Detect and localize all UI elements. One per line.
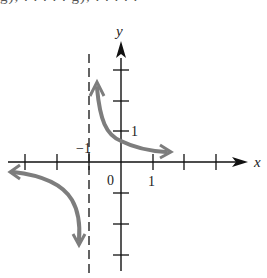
y-tick-label-1: 1 [131,124,138,139]
graph-canvas: y x 0 1 1 −1 [0,0,267,278]
origin-label: 0 [107,173,114,188]
asymptote-label: −1 [76,141,91,156]
left-branch-curve [10,165,85,245]
x-tick-label-1: 1 [148,174,155,189]
right-branch-curve [90,82,171,158]
y-axis-label: y [114,23,123,39]
x-axis [8,154,248,170]
y-axis-arrow-icon [116,41,126,58]
x-axis-label: x [253,154,261,170]
y-axis [113,41,129,271]
